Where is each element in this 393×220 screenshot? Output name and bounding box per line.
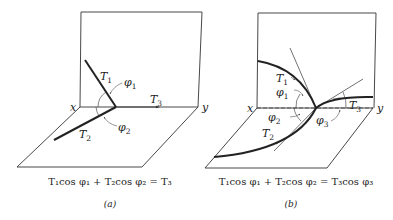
t3-label-a: T3 [150, 93, 162, 108]
t1-label-b: T1 [276, 72, 288, 87]
tension-diagram: x y T1 T2 T3 φ1 φ2 T₁cos φ₁ + T₂cos φ₂ =… [0, 0, 393, 220]
phi1-arc-b [296, 94, 300, 108]
caption-a: (a) [104, 199, 117, 209]
phi1-arc-a [98, 92, 106, 107]
horizontal-plane-a [17, 107, 198, 167]
t2-label-a: T2 [79, 128, 91, 143]
phi2-arc-b [294, 108, 301, 121]
t1-label-a: T1 [100, 70, 112, 85]
phi1-label-a: φ1 [124, 76, 136, 91]
phi2-arc-a [96, 107, 99, 116]
phi3-label-b: φ3 [316, 114, 329, 129]
phi1-label-b: φ1 [276, 86, 288, 101]
t2-label-b: T2 [262, 127, 274, 142]
y-axis-label-a: y [201, 101, 209, 114]
equation-b: T₁cos φ₁ + T₂cos φ₂ = T₃cos φ₃ [219, 176, 373, 187]
caption-b: (b) [285, 199, 298, 209]
y-axis-label-b: y [376, 102, 384, 115]
equation-a: T₁cos φ₁ + T₂cos φ₂ = T₃ [48, 176, 171, 187]
vertical-plane-a [80, 12, 202, 107]
panel-b: x y T1 T2 T3 φ1 φ2 φ3 T₁cos φ₁ + T₂cos φ… [205, 13, 384, 209]
t2-tangent-b [274, 108, 316, 151]
phi2-label-b: φ2 [268, 111, 281, 126]
x-axis-label-a: x [70, 101, 77, 114]
horizontal-plane-b [205, 108, 373, 168]
t3-label-b: T3 [349, 99, 361, 114]
x-axis-label-b: x [247, 102, 254, 115]
vertical-plane-b [257, 13, 376, 108]
panel-a: x y T1 T2 T3 φ1 φ2 T₁cos φ₁ + T₂cos φ₂ =… [17, 12, 209, 209]
phi2-label-a: φ2 [118, 121, 131, 136]
phi3-arc-b [343, 92, 346, 108]
